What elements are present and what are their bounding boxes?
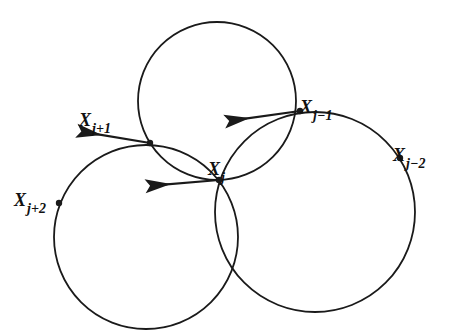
- circles-group: [54, 22, 415, 329]
- circle-top: [138, 22, 296, 180]
- arrowhead-icon: [223, 115, 250, 129]
- arrowhead-icon: [145, 179, 171, 193]
- label-xj2m: Xj−2: [392, 145, 425, 171]
- circle-diagram: Xj+2Xj+1XjXj−1Xj−2: [0, 0, 451, 336]
- labels-group: Xj+2Xj+1XjXj−1Xj−2: [13, 97, 425, 216]
- label-xj1m: Xj−1: [299, 97, 332, 123]
- point-xj2p: [56, 200, 62, 206]
- point-xj1p: [147, 140, 153, 146]
- circle-right: [215, 112, 415, 312]
- label-xj2p: Xj+2: [13, 190, 46, 216]
